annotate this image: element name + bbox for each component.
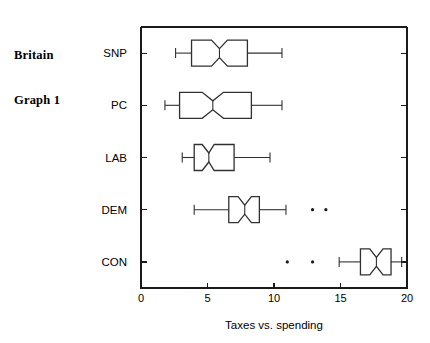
box-group-dem [194,197,327,223]
x-tick-label-5: 5 [204,292,210,304]
y-axis-category-labels: SNPPCLABDEMCON [101,47,127,268]
x-axis-tick-labels: 05101520 [138,292,413,304]
box-plot-series [165,40,402,275]
y-label-lab: LAB [105,152,127,164]
chart-title: Britain Graph 1 [14,18,60,138]
x-axis-label: Taxes vs. spending [225,319,323,331]
box-pc [180,92,252,118]
y-label-dem: DEM [101,204,127,216]
outlier-dem-0 [311,208,314,211]
box-dem [229,197,260,223]
outlier-con-0 [286,260,289,263]
box-group-con [286,249,402,275]
x-tick-label-20: 20 [401,292,413,304]
y-label-pc: PC [111,99,127,111]
box-con [360,249,391,275]
y-axis-ticks [141,53,407,262]
outlier-con-1 [311,260,314,263]
y-label-con: CON [101,256,127,268]
figure-container: Britain Graph 1 05101520 SNPPCLABDEMCON … [0,0,430,343]
x-tick-label-10: 10 [268,292,280,304]
y-label-snp: SNP [103,47,127,59]
chart-title-line-1: Britain [14,48,60,63]
boxplot-svg: 05101520 SNPPCLABDEMCON Taxes vs. spendi… [0,0,430,343]
chart-title-line-2: Graph 1 [14,93,60,108]
x-tick-label-15: 15 [334,292,346,304]
x-axis-ticks [208,283,341,288]
box-lab [194,145,234,171]
outlier-dem-1 [324,208,327,211]
box-group-lab [182,145,270,171]
box-group-pc [165,92,282,118]
x-tick-label-0: 0 [138,292,144,304]
box-group-snp [176,40,282,66]
